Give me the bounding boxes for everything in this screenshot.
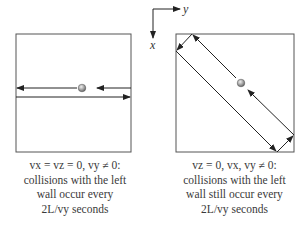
left-caption: vx = vz = 0, vy ≠ 0: collisions with the… (0, 158, 150, 216)
particle-ball (237, 79, 245, 87)
left-caption-line3: wall occur every (0, 187, 150, 202)
left-caption-line1: vx = vz = 0, vy ≠ 0: (0, 158, 150, 173)
upper-path-arrow-1 (248, 90, 257, 99)
y-axis-label: y (182, 2, 189, 16)
x-axis-label: x (149, 38, 156, 52)
left-panel (16, 34, 131, 152)
bottom-bounce-arrow (277, 136, 293, 152)
right-caption: vz = 0, vx, vy ≠ 0: collisions with the … (162, 158, 307, 216)
top-bounce-arrow (177, 34, 192, 50)
lower-path-arrow (176, 51, 276, 151)
particle-ball (78, 84, 86, 92)
upper-path-arrow-2 (193, 35, 236, 78)
right-caption-line4: 2L/vy seconds (162, 202, 307, 217)
right-caption-line2: collisions with the left (162, 173, 307, 188)
right-caption-line1: vz = 0, vx, vy ≠ 0: (162, 158, 307, 173)
right-caption-line3: wall still occur every (162, 187, 307, 202)
right-container-box (176, 34, 294, 152)
left-container-box (16, 34, 131, 152)
left-caption-line2: collisions with the left (0, 173, 150, 188)
left-caption-line4: 2L/vy seconds (0, 202, 150, 217)
right-panel (176, 34, 294, 152)
